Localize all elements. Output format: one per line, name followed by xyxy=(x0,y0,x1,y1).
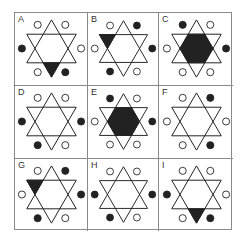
filled-circle-left xyxy=(91,191,98,198)
open-circle-left xyxy=(91,118,98,125)
open-circle-bottom-left xyxy=(107,141,114,148)
open-circle-left xyxy=(91,45,98,52)
filled-circle-top-left xyxy=(107,95,114,102)
cell-i[interactable]: I xyxy=(159,159,233,231)
filled-hexagon xyxy=(180,34,213,63)
open-circle-bottom-right xyxy=(62,142,69,149)
open-circle-right xyxy=(223,191,230,198)
open-circle-bottom-right xyxy=(133,214,140,221)
filled-circle-left xyxy=(163,191,170,198)
cell-f[interactable]: F xyxy=(159,86,233,159)
cell-label: H xyxy=(91,160,98,170)
cell-label: I xyxy=(162,160,165,170)
open-circle-top-right xyxy=(207,167,214,174)
cell-b[interactable]: B xyxy=(88,13,159,86)
star-figure xyxy=(15,86,87,158)
open-circle-bottom-left xyxy=(179,215,186,222)
open-circle-top-right xyxy=(62,21,69,28)
cell-label: E xyxy=(91,87,97,97)
open-circle-top-left xyxy=(34,167,41,174)
open-circle-left xyxy=(163,45,170,52)
filled-top-left-triangle xyxy=(99,35,115,49)
filled-circle-top-right xyxy=(207,94,214,101)
open-circle-bottom-right xyxy=(62,215,69,222)
filled-circle-bottom-left xyxy=(34,142,41,149)
star-figure xyxy=(159,86,233,158)
star-figure xyxy=(159,13,233,85)
open-circle-top-left xyxy=(34,94,41,101)
open-circle-top-left xyxy=(107,168,114,175)
open-circle-top-left xyxy=(107,22,114,29)
cell-label: D xyxy=(18,87,25,97)
filled-circle-top-right xyxy=(62,167,69,174)
filled-circle-right xyxy=(149,118,156,125)
cell-label: G xyxy=(18,160,25,170)
open-circle-bottom-left xyxy=(179,69,186,76)
puzzle-grid: A B C D E F G H I xyxy=(14,12,232,230)
star-figure xyxy=(15,13,87,85)
filled-circle-bottom-left xyxy=(107,214,114,221)
cell-a[interactable]: A xyxy=(15,13,88,86)
open-circle-top-right xyxy=(207,21,214,28)
cell-e[interactable]: E xyxy=(88,86,159,159)
open-circle-top-right xyxy=(62,94,69,101)
filled-circle-bottom-right xyxy=(62,69,69,76)
open-circle-top-right xyxy=(133,168,140,175)
star-figure xyxy=(159,159,233,231)
open-circle-top-right xyxy=(133,95,140,102)
filled-circle-top-left xyxy=(179,21,186,28)
filled-bottom-triangle xyxy=(43,63,60,77)
filled-circle-right xyxy=(78,191,85,198)
open-circle-right xyxy=(78,45,85,52)
open-circle-bottom-left xyxy=(179,142,186,149)
open-circle-top-left xyxy=(34,21,41,28)
star-figure xyxy=(88,159,158,231)
cell-label: A xyxy=(18,14,24,24)
star-figure xyxy=(88,13,158,85)
filled-top-left-triangle xyxy=(27,180,44,194)
filled-circle-right xyxy=(78,118,85,125)
filled-circle-right xyxy=(223,45,230,52)
filled-circle-bottom-left xyxy=(107,68,114,75)
filled-bottom-triangle xyxy=(188,209,205,223)
star-figure xyxy=(88,86,158,158)
cell-label: B xyxy=(91,14,97,24)
filled-circle-left xyxy=(18,45,25,52)
open-circle-bottom-right xyxy=(133,141,140,148)
open-circle-bottom-right xyxy=(207,69,214,76)
filled-circle-bottom-right xyxy=(207,215,214,222)
filled-hexagon xyxy=(107,108,139,136)
open-circle-top-left xyxy=(179,94,186,101)
star-figure xyxy=(15,159,87,231)
open-circle-left xyxy=(18,191,25,198)
filled-circle-bottom-left xyxy=(34,215,41,222)
cell-g[interactable]: G xyxy=(15,159,88,231)
open-circle-left xyxy=(163,118,170,125)
open-circle-right xyxy=(223,118,230,125)
open-circle-top-left xyxy=(179,167,186,174)
filled-circle-top-right xyxy=(133,22,140,29)
cell-h[interactable]: H xyxy=(88,159,159,231)
open-circle-bottom-right xyxy=(133,68,140,75)
filled-circle-left xyxy=(18,118,25,125)
cell-label: F xyxy=(162,87,168,97)
cell-d[interactable]: D xyxy=(15,86,88,159)
filled-circle-right xyxy=(149,191,156,198)
cell-label: C xyxy=(162,14,169,24)
open-circle-bottom-left xyxy=(34,69,41,76)
filled-circle-bottom-right xyxy=(207,142,214,149)
filled-circle-right xyxy=(149,45,156,52)
cell-c[interactable]: C xyxy=(159,13,233,86)
